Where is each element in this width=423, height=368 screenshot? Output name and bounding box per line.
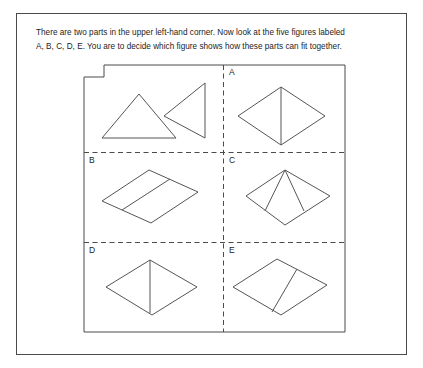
instructions-line-2: A, B, C, D, E. You are to decide which f… — [36, 40, 396, 54]
panel-option-d[interactable] — [84, 243, 223, 332]
instructions-text: There are two parts in the upper left-ha… — [36, 26, 396, 53]
panel-option-b[interactable] — [84, 153, 223, 242]
panel-parts — [84, 65, 223, 152]
instructions-line-1: There are two parts in the upper left-ha… — [36, 26, 396, 40]
panel-option-c[interactable] — [224, 153, 345, 242]
worksheet-page: There are two parts in the upper left-ha… — [0, 0, 423, 368]
panel-option-a[interactable] — [224, 65, 345, 152]
panel-option-e[interactable] — [224, 243, 345, 332]
